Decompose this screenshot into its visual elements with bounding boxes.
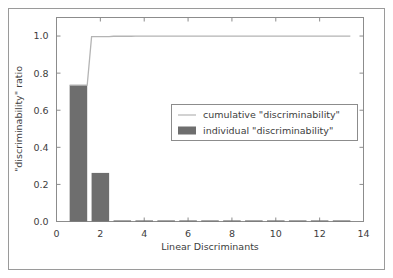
bar xyxy=(223,220,241,221)
bar xyxy=(245,220,263,221)
y-tick-label: 0.2 xyxy=(33,179,48,190)
y-tick-label: 0.6 xyxy=(33,105,48,116)
y-axis-title: "discriminability" ratio xyxy=(13,66,24,172)
bar xyxy=(267,220,285,221)
bar xyxy=(135,220,153,221)
bar xyxy=(157,220,175,221)
x-tick-label: 14 xyxy=(357,228,369,239)
x-tick-label: 2 xyxy=(97,228,103,239)
bar xyxy=(70,85,88,221)
y-tick-label: 0.4 xyxy=(33,142,48,153)
x-tick-label: 4 xyxy=(141,228,147,239)
x-axis-title: Linear Discriminants xyxy=(161,241,259,252)
bar xyxy=(289,220,307,221)
x-tick-label: 12 xyxy=(314,228,326,239)
bar xyxy=(333,220,351,221)
y-tick-label: 0.8 xyxy=(33,68,48,79)
y-tick-label: 1.0 xyxy=(33,30,48,41)
x-tick-label: 6 xyxy=(185,228,191,239)
x-tick-label: 10 xyxy=(270,228,282,239)
bar xyxy=(201,220,219,221)
chart-canvas: 0.00.20.40.60.81.0 02468101214 Linear Di… xyxy=(0,0,393,278)
bar xyxy=(114,220,132,221)
x-tick-label: 0 xyxy=(53,228,59,239)
x-tick-label: 8 xyxy=(229,228,235,239)
figure: 0.00.20.40.60.81.0 02468101214 Linear Di… xyxy=(0,0,393,278)
legend-marker-individual-patch xyxy=(178,127,196,135)
legend-label-cumulative: cumulative "discriminability" xyxy=(203,109,340,120)
bar xyxy=(92,173,110,222)
bar xyxy=(311,220,329,221)
bar xyxy=(179,220,197,221)
legend-label-individual: individual "discriminability" xyxy=(203,125,333,136)
y-tick-label: 0.0 xyxy=(33,216,48,227)
legend: cumulative "discriminability" individual… xyxy=(172,105,358,141)
